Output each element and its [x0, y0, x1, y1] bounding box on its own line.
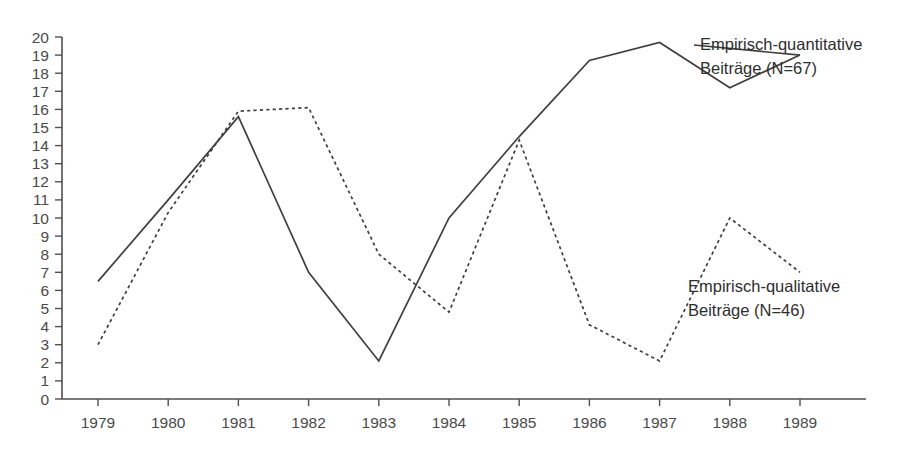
y-axis-tick-label: 2: [40, 354, 49, 371]
x-axis-tick-label: 1983: [362, 414, 396, 431]
x-axis-tick-label: 1981: [221, 414, 255, 431]
y-axis-tick-label: 10: [32, 210, 50, 227]
y-axis-tick-label: 9: [40, 228, 49, 245]
chart-canvas: 20191817161514131211109876543210 1979198…: [0, 0, 919, 451]
y-axis-tick-label: 6: [40, 282, 49, 299]
annotation-quantitative: Empirisch-quantitative Beiträge (N=67): [700, 35, 862, 77]
x-axis-tick-label: 1979: [81, 414, 115, 431]
x-axis-labels: 1979198019811982198319841985198619871988…: [81, 414, 817, 431]
y-axis-tick-label: 4: [40, 318, 49, 335]
y-axis-tick-label: 14: [32, 137, 50, 154]
y-axis-tick-label: 17: [32, 83, 49, 100]
y-axis-tick-label: 20: [32, 29, 50, 46]
x-axis-tick-label: 1984: [432, 414, 467, 431]
x-axis-tick-label: 1982: [291, 414, 325, 431]
x-axis-tick-label: 1985: [502, 414, 536, 431]
y-axis-tick-label: 18: [32, 65, 49, 82]
y-axis-tick-label: 16: [32, 101, 49, 118]
y-axis-tick-label: 15: [32, 119, 49, 136]
x-axis-tick-label: 1986: [572, 414, 606, 431]
x-axis-tick-label: 1980: [151, 414, 186, 431]
y-axis-tick-label: 13: [32, 155, 49, 172]
line-chart: 20191817161514131211109876543210 1979198…: [0, 0, 919, 451]
annotation-qualitative-line2: Beiträge (N=46): [688, 301, 805, 319]
y-axis-tick-label: 1: [40, 372, 49, 389]
y-axis-tick-label: 8: [40, 246, 49, 263]
y-axis-tick-label: 0: [40, 391, 49, 408]
x-axis-tick-label: 1988: [713, 414, 747, 431]
y-axis-tick-label: 12: [32, 173, 49, 190]
y-axis-tick-label: 3: [40, 336, 49, 353]
x-axis-tick-label: 1987: [642, 414, 676, 431]
y-axis-tick-label: 11: [33, 191, 49, 208]
y-axis-ticks: [55, 37, 62, 399]
annotation-qualitative: Empirisch-qualitative Beiträge (N=46): [688, 277, 840, 319]
y-axis-tick-label: 7: [40, 264, 49, 281]
x-axis-tick-label: 1989: [783, 414, 817, 431]
y-axis-tick-label: 19: [32, 47, 49, 64]
annotation-qualitative-line1: Empirisch-qualitative: [688, 277, 840, 295]
y-axis-labels: 20191817161514131211109876543210: [32, 29, 50, 408]
y-axis-tick-label: 5: [40, 300, 49, 317]
annotation-quantitative-line2: Beiträge (N=67): [700, 59, 817, 77]
series-line-qualitative: [98, 108, 800, 361]
annotation-quantitative-line1: Empirisch-quantitative: [700, 35, 862, 53]
x-axis-ticks: [98, 399, 800, 406]
